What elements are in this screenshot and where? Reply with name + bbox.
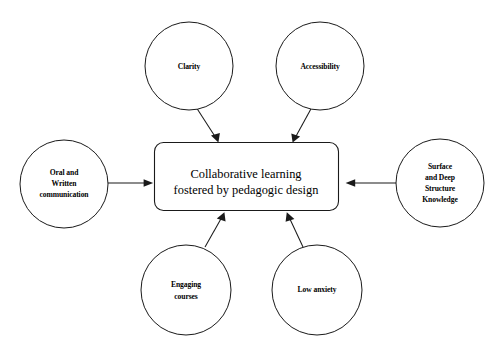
diagram-svg: Collaborative learning fostered by pedag… bbox=[0, 0, 489, 357]
node-accessibility[interactable]: Accessibility bbox=[276, 22, 364, 110]
engaging-courses-circle-shape bbox=[141, 245, 231, 335]
clarity-label-line-1: Clarity bbox=[178, 62, 201, 71]
oral-written-label-line-2: Written bbox=[52, 179, 78, 188]
diagram-canvas: Collaborative learning fostered by pedag… bbox=[0, 0, 489, 357]
surface-deep-label-line-3: Structure bbox=[425, 184, 456, 193]
surface-deep-label-line-4: Knowledge bbox=[422, 195, 458, 204]
center-label-line-1: Collaborative learning bbox=[190, 167, 301, 181]
node-surface-and-deep-structure-knowledge[interactable]: Surface and Deep Structure Knowledge bbox=[396, 139, 484, 227]
node-clarity[interactable]: Clarity bbox=[145, 22, 233, 110]
edge-accessibility-to-center bbox=[291, 107, 312, 143]
node-engaging-courses[interactable]: Engaging courses bbox=[141, 245, 231, 335]
engaging-courses-label-line-1: Engaging bbox=[171, 280, 201, 289]
accessibility-label-line-1: Accessibility bbox=[300, 62, 339, 71]
edge-oral-written-to-center bbox=[108, 179, 153, 186]
edge-engaging-courses-to-center bbox=[205, 212, 226, 247]
surface-deep-label-line-2: and Deep bbox=[425, 173, 455, 182]
edge-low-anxiety-to-center bbox=[286, 212, 303, 247]
edge-surface-deep-to-center bbox=[346, 179, 396, 186]
node-collaborative-learning[interactable]: Collaborative learning fostered by pedag… bbox=[155, 143, 339, 211]
node-oral-and-written-communication[interactable]: Oral and Written communication bbox=[20, 140, 108, 228]
surface-deep-circle-shape bbox=[396, 139, 484, 227]
center-label-line-2: fostered by pedagogic design bbox=[174, 183, 319, 197]
edge-clarity-to-center bbox=[196, 107, 220, 143]
engaging-courses-label-line-2: courses bbox=[174, 292, 197, 301]
low-anxiety-label-line-1: Low anxiety bbox=[298, 285, 337, 294]
surface-deep-label-line-1: Surface bbox=[428, 162, 453, 171]
node-low-anxiety[interactable]: Low anxiety bbox=[272, 245, 362, 335]
oral-written-label-line-3: communication bbox=[40, 190, 90, 199]
oral-written-label-line-1: Oral and bbox=[50, 168, 79, 177]
